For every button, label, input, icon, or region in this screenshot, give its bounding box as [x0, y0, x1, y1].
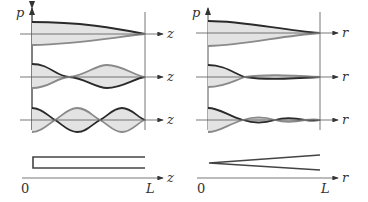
right-panel: r r r p r 0 L — [192, 5, 349, 196]
right-p-label: p — [192, 5, 201, 20]
right-origin-label: 0 — [197, 181, 205, 196]
r-label: r — [342, 25, 349, 40]
cylinder-shape — [33, 157, 145, 168]
right-mode-3: r — [196, 108, 349, 132]
left-L-label: L — [145, 181, 155, 196]
svg-text:z: z — [166, 112, 174, 127]
left-origin-label: 0 — [21, 181, 29, 196]
right-mode-1: r — [196, 21, 349, 46]
cone-shape — [209, 155, 320, 170]
left-mode-1: z — [20, 22, 174, 45]
z-label: z — [166, 26, 174, 41]
left-p-label: p — [16, 5, 25, 20]
left-panel: z z z p z 0 L — [16, 5, 174, 196]
svg-text:r: r — [342, 69, 349, 84]
right-mode-2: r — [196, 65, 349, 87]
right-L-label: L — [320, 181, 330, 196]
diagram-canvas: z z z p z 0 L — [0, 0, 368, 202]
left-mode-3: z — [20, 108, 174, 132]
svg-text:z: z — [166, 69, 174, 84]
left-mode-2: z — [20, 64, 174, 88]
svg-text:r: r — [342, 112, 349, 127]
svg-text:z: z — [166, 170, 174, 185]
svg-text:r: r — [342, 170, 349, 185]
